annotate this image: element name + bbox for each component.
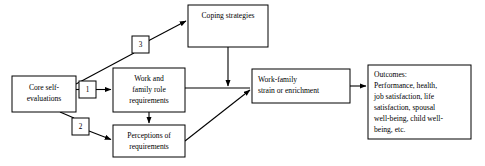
- node-work-family-role-requirements[interactable]: Work and family role requirements: [113, 68, 185, 112]
- node-label-line: Work and: [134, 74, 164, 83]
- edge-core-to-label2-segment: [60, 112, 74, 118]
- node-label-line: satisfaction, spousal: [374, 103, 435, 112]
- path-label-text: 1: [86, 86, 90, 94]
- path-label-text: 2: [79, 123, 83, 131]
- node-work-family-strain-or-enrichment[interactable]: Work-family strain or enrichment: [252, 69, 350, 103]
- node-perceptions-of-requirements[interactable]: Perceptions of requirements: [113, 125, 185, 157]
- node-core-self-evaluations[interactable]: Core self- evaluations: [12, 76, 76, 112]
- node-label-line: requirements: [129, 96, 169, 105]
- node-label-line: requirements: [129, 142, 169, 151]
- edge-perceptions-to-strain: [185, 90, 250, 141]
- node-label-line: Core self-: [29, 83, 60, 92]
- node-label-line: job satisfaction, life: [373, 92, 435, 101]
- path-label-1[interactable]: 1: [79, 81, 96, 98]
- node-label-line: family role: [132, 85, 166, 94]
- node-label-line: Coping strategies: [202, 11, 255, 20]
- path-label-2[interactable]: 2: [72, 118, 89, 135]
- node-label-line: Perceptions of: [127, 131, 171, 140]
- node-label-line: well-being, child well-: [374, 114, 443, 123]
- node-label-line: Work-family: [258, 75, 297, 84]
- path-label-text: 3: [139, 41, 143, 49]
- node-label-line: strain or enrichment: [258, 86, 320, 95]
- node-label-line: Outcomes:: [374, 70, 407, 79]
- node-label-line: Performance, health,: [374, 81, 437, 90]
- flow-diagram-svg: Core self- evaluations Work and family r…: [0, 0, 485, 166]
- edge-core-to-perceptions: [89, 131, 111, 140]
- node-label-line: being, etc.: [374, 125, 406, 134]
- node-label-line: evaluations: [27, 94, 62, 103]
- node-coping-strategies[interactable]: Coping strategies: [188, 5, 268, 47]
- node-outcomes[interactable]: Outcomes: Performance, health, job satis…: [368, 65, 471, 139]
- diagram-canvas: Core self- evaluations Work and family r…: [0, 0, 485, 166]
- edge-core-to-coping: [148, 21, 186, 41]
- path-label-3[interactable]: 3: [132, 36, 149, 53]
